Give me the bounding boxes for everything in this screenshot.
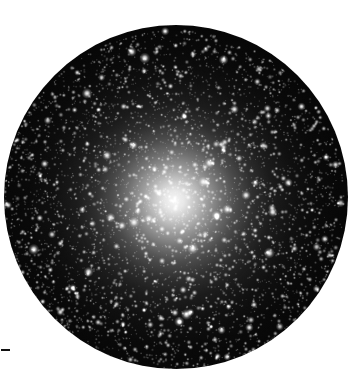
scale-bar [1,349,10,351]
resolved-star-field [4,25,348,369]
globular-cluster-field [4,25,348,369]
